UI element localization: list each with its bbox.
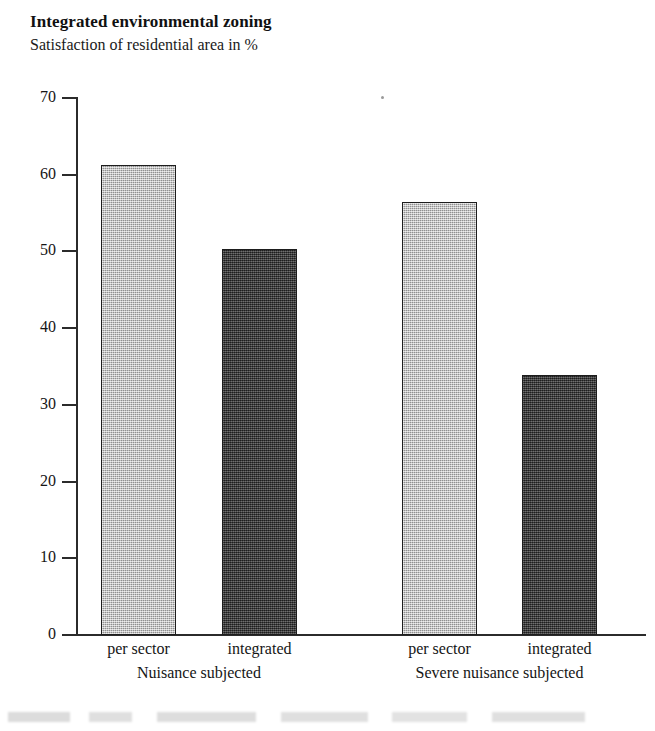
y-axis-tick-label: 10 [12,549,56,565]
y-axis-tick-label: 40 [12,319,56,335]
y-axis-tick-label-wrap: 40 [0,319,56,335]
y-axis-tick [62,481,76,483]
y-axis-tick-label-wrap: 50 [0,242,56,258]
y-axis-tick [62,97,76,99]
y-axis-tick [62,634,76,636]
y-axis-tick-label-wrap: 0 [0,626,56,642]
y-axis-tick-label-wrap: 10 [0,549,56,565]
y-axis-tick-label-wrap: 70 [0,89,56,105]
y-axis-tick-label: 50 [12,242,56,258]
y-axis-tick [62,404,76,406]
y-axis-tick-label-wrap: 60 [0,166,56,182]
y-axis-tick-label: 0 [12,626,56,642]
bar [222,249,297,635]
bar [101,165,176,635]
scan-speck [381,96,384,99]
bar [522,375,597,635]
x-axis-group-label: Nuisance subjected [49,664,349,682]
x-axis-label-integrated: integrated [190,640,330,658]
y-axis-tick-label: 30 [12,396,56,412]
x-axis-label-integrated: integrated [490,640,630,658]
y-axis-tick [62,250,76,252]
y-axis-line [76,97,78,636]
y-axis-tick-label-wrap: 30 [0,396,56,412]
y-axis-tick-label: 70 [12,89,56,105]
chart-header: Integrated environmental zoning Satisfac… [30,12,630,54]
chart-canvas: Integrated environmental zoning Satisfac… [0,0,655,731]
x-axis-group-label: Severe nuisance subjected [350,664,650,682]
y-axis-tick-label: 20 [12,473,56,489]
y-axis-tick [62,174,76,176]
scan-artifact [8,712,628,722]
y-axis-tick [62,557,76,559]
x-axis-label-per-sector: per sector [370,640,510,658]
y-axis-tick-label: 60 [12,166,56,182]
y-axis-tick [62,327,76,329]
bar [402,202,477,635]
y-axis-tick-label-wrap: 20 [0,473,56,489]
page-title: Integrated environmental zoning [30,12,630,32]
chart-subtitle: Satisfaction of residential area in % [30,35,630,54]
x-axis-label-per-sector: per sector [69,640,209,658]
